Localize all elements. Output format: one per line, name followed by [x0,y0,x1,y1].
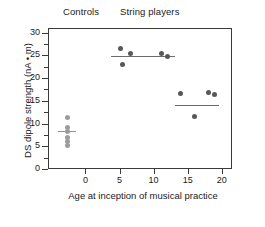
y-tick-minor [44,67,48,68]
mean-line [175,105,219,106]
scatter-plot-figure: Controls String players 051015202530 051… [0,0,265,227]
y-tick-30 [42,33,48,34]
x-tick-15 [188,169,189,174]
y-axis-title: DS dipole strength (nA • m) [22,26,33,176]
data-point [206,90,211,95]
y-tick-minor [44,135,48,136]
x-tick-label-0: 0 [75,175,95,185]
y-tick-15 [42,101,48,102]
y-tick-minor [44,89,48,90]
group-label-controls: Controls [63,6,99,17]
x-tick-5 [120,169,121,174]
y-tick-25 [42,55,48,56]
x-tick-label-15: 15 [178,175,198,185]
y-tick-0 [42,169,48,170]
x-tick-0 [85,169,86,174]
x-tick-label-20: 20 [212,175,232,185]
x-axis-title: Age at inception of musical practice [48,190,238,201]
y-tick-minor [44,112,48,113]
x-tick-label-5: 5 [110,175,130,185]
y-tick-20 [42,78,48,79]
data-point [165,54,170,59]
data-point [128,51,133,56]
data-point [118,46,123,51]
plot-area [48,28,232,169]
y-tick-10 [42,124,48,125]
group-label-string-players: String players [120,6,179,17]
y-tick-minor [44,158,48,159]
x-tick-label-10: 10 [144,175,164,185]
y-tick-minor [44,44,48,45]
y-tick-5 [42,146,48,147]
group-divider-line [48,28,49,169]
data-point [65,129,70,134]
x-tick-20 [222,169,223,174]
x-tick-10 [154,169,155,174]
data-point [65,115,70,120]
data-point [65,143,70,148]
